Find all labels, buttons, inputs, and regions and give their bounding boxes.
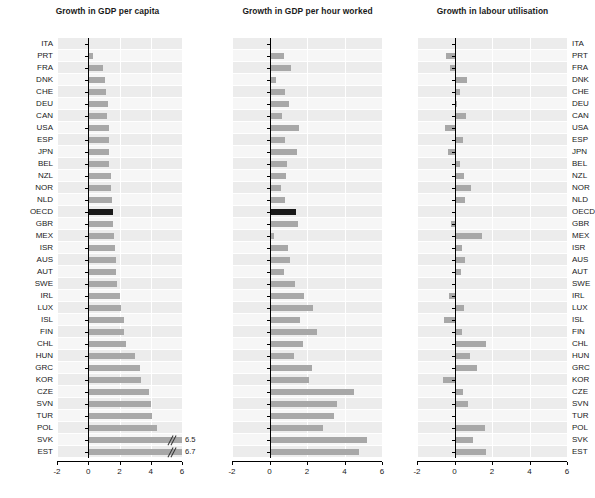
y-tick (85, 440, 88, 441)
plot-area (232, 38, 382, 458)
category-label-isr: ISR (572, 243, 585, 253)
y-tick (85, 44, 88, 45)
category-label-chl: CHL (572, 339, 588, 349)
category-label-pol: POL (572, 423, 588, 433)
bar-cze (455, 389, 463, 395)
y-tick (267, 356, 270, 357)
category-label-grc: GRC (572, 363, 590, 373)
category-label-esp: ESP (37, 135, 53, 145)
bar-chl (88, 341, 126, 347)
category-label-dnk: DNK (36, 75, 53, 85)
bar-aus (270, 257, 291, 263)
bar-pol (88, 425, 157, 431)
category-label-deu: DEU (572, 99, 589, 109)
bar-tur (88, 413, 152, 419)
bar-grc (455, 365, 478, 371)
y-tick (267, 320, 270, 321)
bar-gbr (88, 221, 113, 227)
y-tick (452, 176, 455, 177)
bar-fra (270, 65, 292, 71)
y-tick (267, 92, 270, 93)
category-label-fra: FRA (37, 63, 53, 73)
vertical-gridline (530, 38, 531, 458)
y-tick (452, 440, 455, 441)
x-tick-label: 6 (554, 467, 580, 476)
bar-bel (88, 161, 108, 167)
y-tick (452, 392, 455, 393)
y-tick (452, 452, 455, 453)
y-tick (267, 224, 270, 225)
chart-panel-1: Growth in GDP per capita-20246ITAPRTFRAD… (10, 0, 205, 498)
bar-nzl (88, 173, 111, 179)
vertical-gridline (492, 38, 493, 458)
y-tick (452, 284, 455, 285)
y-tick (267, 296, 270, 297)
y-tick (85, 92, 88, 93)
y-tick (452, 56, 455, 57)
y-tick (85, 344, 88, 345)
y-tick (267, 80, 270, 81)
category-label-kor: KOR (36, 375, 53, 385)
category-label-prt: PRT (37, 51, 53, 61)
category-label-esp: ESP (572, 135, 588, 145)
x-tick (455, 462, 456, 465)
y-tick (85, 56, 88, 57)
bar-lux (88, 305, 121, 311)
bar-irl (88, 293, 120, 299)
y-tick (85, 260, 88, 261)
y-tick (85, 296, 88, 297)
y-tick (452, 368, 455, 369)
y-tick (452, 44, 455, 45)
bar-nor (455, 185, 472, 191)
y-tick (85, 224, 88, 225)
category-label-fin: FIN (40, 327, 53, 337)
y-tick (452, 332, 455, 333)
x-tick-label: -2 (404, 467, 430, 476)
x-tick (417, 462, 418, 465)
y-tick (267, 164, 270, 165)
x-tick-label: 4 (138, 467, 164, 476)
y-tick (85, 212, 88, 213)
y-tick (85, 404, 88, 405)
category-label-svk: SVK (572, 435, 588, 445)
x-tick (345, 462, 346, 465)
bar-esp (88, 137, 108, 143)
category-label-lux: LUX (37, 303, 53, 313)
y-tick (267, 272, 270, 273)
category-label-jpn: JPN (38, 147, 53, 157)
bar-aus (88, 257, 115, 263)
bar-est (455, 449, 487, 455)
bar-che (88, 89, 106, 95)
y-tick (85, 332, 88, 333)
y-tick (85, 200, 88, 201)
plot-area (417, 38, 567, 458)
bar-nzl (270, 173, 287, 179)
y-tick (452, 212, 455, 213)
category-label-cze: CZE (37, 387, 53, 397)
x-tick (57, 462, 58, 465)
category-label-nor: NOR (35, 183, 53, 193)
axis-break-mark (168, 448, 177, 457)
y-tick (267, 248, 270, 249)
y-tick (267, 116, 270, 117)
x-tick (88, 462, 89, 465)
category-label-prt: PRT (572, 51, 588, 61)
bar-svn (270, 401, 338, 407)
axis-break-mark (168, 436, 177, 445)
y-tick (85, 152, 88, 153)
y-tick (267, 236, 270, 237)
y-tick (267, 368, 270, 369)
y-tick (85, 140, 88, 141)
bar-can (88, 113, 107, 119)
bar-svk (270, 437, 368, 443)
bar-nld (88, 197, 112, 203)
bar-nor (270, 185, 281, 191)
category-label-est: EST (37, 447, 53, 457)
bar-deu (88, 101, 108, 107)
category-label-usa: USA (37, 123, 53, 133)
bar-jpn (270, 149, 297, 155)
y-tick (452, 248, 455, 249)
y-tick (267, 416, 270, 417)
y-tick (452, 356, 455, 357)
x-tick (492, 462, 493, 465)
